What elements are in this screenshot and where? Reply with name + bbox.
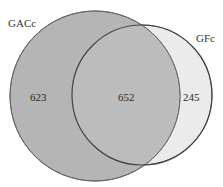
set-label-gacc: GACc <box>8 17 36 29</box>
count-gfc-only: 245 <box>183 91 200 103</box>
set-label-gfc: GFc <box>196 32 215 44</box>
count-gacc-only: 623 <box>30 91 47 103</box>
count-intersection: 652 <box>118 91 135 103</box>
venn-diagram: GACc GFc 623 652 245 <box>0 0 223 187</box>
